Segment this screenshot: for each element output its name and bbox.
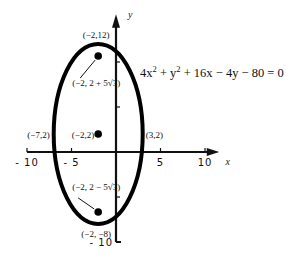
ellipse-diagram: - 10- 5510- 10xy (−2,2)(−2, 2 + 5√3)(−2,… [0,0,286,262]
y-axis-arrow-icon [112,14,120,27]
x-axis-arrow-icon [207,148,219,156]
leader-line-focus-top [80,60,95,78]
label-covertex-right: (3,2) [146,130,163,140]
equation-label: 4x2 + y2 + 16x − 4y − 80 = 0 [140,64,284,80]
label-focus-bottom: (−2, 2 − 5√3) [72,182,120,192]
label-vertex-top: (−2,12) [83,30,110,40]
x-tick-label: - 10 [15,157,39,168]
label-vertex-bottom: (−2, −8) [81,229,111,239]
point-center [94,130,102,138]
label-center: (−2,2) [72,130,94,140]
point-focus-top [94,52,102,60]
x-axis-label: x [224,156,230,167]
point-focus-bottom [94,208,102,216]
label-covertex-left: (−7,2) [27,130,49,140]
x-tick-label: 10 [198,157,213,168]
label-focus-top: (−2, 2 + 5√3) [72,78,120,88]
x-tick-label: - 5 [63,157,79,168]
x-tick-label: 5 [157,157,164,168]
y-axis-label: y [127,9,133,20]
leader-line-focus-bottom [78,198,94,209]
